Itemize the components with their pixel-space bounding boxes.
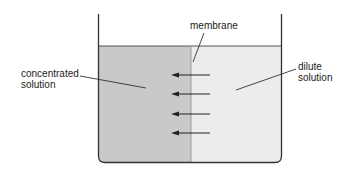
dilute-label-line1: dilute: [298, 61, 332, 72]
dilute-solution-label: dilute solution: [298, 61, 332, 83]
concentrated-label-line2: solution: [21, 79, 79, 90]
dilute-solution-region: [191, 46, 281, 162]
concentrated-solution-label: concentrated solution: [21, 68, 79, 90]
membrane-label-text: membrane: [190, 20, 238, 31]
dilute-label-line2: solution: [298, 72, 332, 83]
membrane-label: membrane: [190, 20, 238, 31]
concentrated-solution-region: [99, 46, 191, 162]
concentrated-label-line1: concentrated: [21, 68, 79, 79]
